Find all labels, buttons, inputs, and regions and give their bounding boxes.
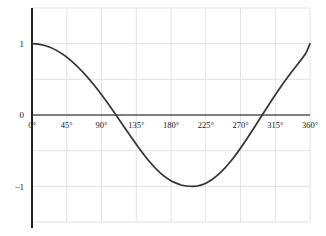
x-tick-label-0: 0° — [28, 120, 36, 130]
x-tick-label-135: 135° — [128, 120, 144, 130]
y-tick-label-1: 1 — [20, 39, 25, 49]
x-tick-label-270: 270° — [232, 120, 248, 130]
x-tick-label-45: 45° — [61, 120, 73, 130]
cosine-chart: 0° 45° 90° 135° 180° 225° 270° 315° 360°… — [0, 0, 326, 236]
y-tick-label-0: 0 — [20, 110, 25, 120]
chart-background — [0, 0, 326, 236]
x-tick-label-180: 180° — [163, 120, 179, 130]
y-tick-label-neg1: −1 — [14, 182, 24, 192]
x-tick-label-225: 225° — [198, 120, 214, 130]
x-tick-label-315: 315° — [267, 120, 283, 130]
x-tick-label-360: 360° — [302, 120, 318, 130]
x-tick-labels: 0° 45° 90° 135° 180° 225° 270° 315° 360° — [28, 120, 318, 130]
chart-svg: 0° 45° 90° 135° 180° 225° 270° 315° 360°… — [0, 0, 326, 236]
x-tick-label-90: 90° — [96, 120, 108, 130]
